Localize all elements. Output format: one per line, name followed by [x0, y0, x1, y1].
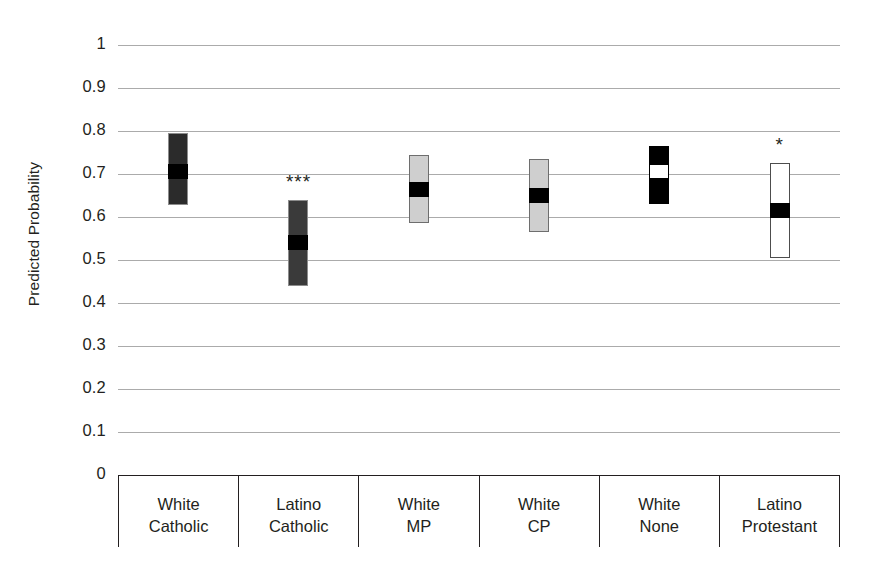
category-label-white-cp: WhiteCP [480, 476, 600, 547]
category-label-line: CP [528, 516, 551, 538]
y-axis-tick-label: 0 [6, 464, 106, 483]
y-axis-tick-label: 0.6 [6, 206, 106, 225]
y-axis-tick-label: 0.3 [6, 335, 106, 354]
y-axis-tick-label: 0.2 [6, 378, 106, 397]
plot-area: **** [118, 45, 840, 475]
category-label-line: White [398, 494, 440, 516]
y-axis-tick-label: 1 [6, 34, 106, 53]
category-label-white-none: WhiteNone [600, 476, 720, 547]
bar-slot [479, 45, 599, 475]
significance-marker: * [776, 135, 784, 154]
point-estimate-marker[interactable] [529, 188, 549, 203]
category-label-line: White [638, 494, 680, 516]
bar-slot: * [720, 45, 840, 475]
predicted-probability-chart: Predicted Probability 10.90.80.70.60.50.… [0, 0, 878, 579]
category-label-line: MP [407, 516, 432, 538]
bar-slot [359, 45, 479, 475]
category-label-line: Latino [757, 494, 802, 516]
point-estimate-marker[interactable] [770, 203, 790, 218]
point-estimate-marker[interactable] [288, 235, 308, 250]
category-axis: WhiteCatholicLatinoCatholicWhiteMPWhiteC… [118, 475, 840, 547]
significance-marker: *** [286, 172, 311, 191]
y-axis-tick-label: 0.5 [6, 249, 106, 268]
y-axis-tick-label: 0.7 [6, 163, 106, 182]
bar-slot [118, 45, 238, 475]
y-axis-tick-label: 0.1 [6, 421, 106, 440]
point-estimate-marker[interactable] [649, 164, 669, 179]
category-label-line: Latino [276, 494, 321, 516]
y-axis-tick-label: 0.4 [6, 292, 106, 311]
category-label-line: Catholic [269, 516, 329, 538]
category-label-line: Protestant [742, 516, 817, 538]
bar-slot [599, 45, 719, 475]
y-axis-tick-label: 0.8 [6, 120, 106, 139]
category-label-line: Catholic [149, 516, 209, 538]
category-label-latino-protestant: LatinoProtestant [720, 476, 839, 547]
point-estimate-marker[interactable] [409, 182, 429, 197]
bar-slot: *** [238, 45, 358, 475]
category-label-white-mp: WhiteMP [359, 476, 479, 547]
category-label-line: White [518, 494, 560, 516]
y-axis-tick-label: 0.9 [6, 77, 106, 96]
category-label-latino-catholic: LatinoCatholic [239, 476, 359, 547]
category-label-white-catholic: WhiteCatholic [119, 476, 239, 547]
point-estimate-marker[interactable] [168, 164, 188, 179]
y-axis-title: Predicted Probability [25, 114, 43, 354]
category-label-line: None [640, 516, 679, 538]
category-label-line: White [157, 494, 199, 516]
